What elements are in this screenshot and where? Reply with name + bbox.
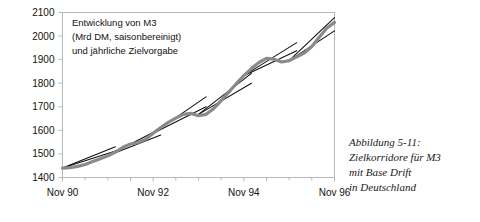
corridor-bound-upper (289, 18, 334, 61)
y-axis-tick-label: 2000 (32, 31, 55, 42)
corridor-bound-upper (199, 73, 252, 114)
x-axis-labels: Nov 90Nov 92Nov 94Nov 96 (47, 187, 351, 198)
y-axis-tick-label: 2100 (32, 7, 55, 18)
caption-line-2: mit Base Drift (349, 166, 412, 178)
caption-line-0: Abbildung 5-11: (348, 136, 421, 148)
figure-caption: Abbildung 5-11: Zielkorridore für M3 mit… (348, 136, 441, 193)
y-axis-tick-label: 1900 (32, 54, 55, 65)
annotation-line-0: Entwicklung von M3 (72, 17, 156, 28)
x-axis-tick-label: Nov 92 (137, 187, 169, 198)
caption-line-1: Zielkorridore für M3 (349, 151, 441, 163)
corridor-bound-lower (63, 151, 116, 168)
y-axis-tick-label: 1800 (32, 78, 55, 89)
figure-container: 14001500160017001800190020002100 Nov 90N… (0, 0, 480, 222)
y-axis-tick-label: 1500 (32, 148, 55, 159)
x-axis-ticks (63, 178, 335, 182)
x-axis-tick-label: Nov 94 (228, 187, 260, 198)
chart-annotation: Entwicklung von M3 (Mrd DM, saisonberein… (72, 17, 181, 56)
y-axis-tick-label: 1700 (32, 101, 55, 112)
y-axis-labels: 14001500160017001800190020002100 (32, 7, 55, 183)
y-axis-tick-label: 1400 (32, 172, 55, 183)
annotation-line-1: (Mrd DM, saisonbereinigt) (72, 31, 181, 42)
corridor-bound-lower (244, 51, 297, 76)
annotation-line-2: und jährliche Zielvorgabe (72, 45, 178, 56)
x-axis-tick-label: Nov 96 (319, 187, 351, 198)
caption-line-3: in Deutschland (349, 181, 416, 193)
x-axis-tick-label: Nov 90 (47, 187, 79, 198)
y-axis-ticks (59, 13, 63, 178)
y-axis-tick-label: 1600 (32, 125, 55, 136)
